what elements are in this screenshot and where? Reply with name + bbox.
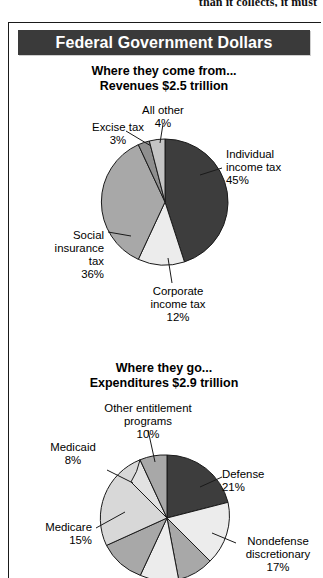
pie2-label-other-entitlement: Other entitlement programs 10% bbox=[90, 402, 206, 441]
pie2-label-nondefense-pct: 17% bbox=[236, 561, 320, 574]
pie2-label-medicare-pct: 15% bbox=[14, 534, 92, 547]
pie1-label-corporate-pct: 12% bbox=[132, 311, 224, 324]
pie2-label-nondefense-line2: discretionary bbox=[236, 548, 320, 561]
pie1-label-all-other-pct: 4% bbox=[132, 117, 194, 130]
pie2-label-nondefense-discretionary: Nondefense discretionary 17% bbox=[236, 535, 320, 574]
pie1-label-social-line3: tax bbox=[22, 255, 104, 268]
pie1-label-social-line2: insurance bbox=[22, 242, 104, 255]
pie2-label-other-ent-line1: Other entitlement bbox=[90, 402, 206, 415]
pie1-label-social-pct: 36% bbox=[22, 268, 104, 281]
figure-title: Federal Government Dollars bbox=[56, 35, 273, 51]
pie2-label-other-ent-pct: 10% bbox=[90, 428, 206, 441]
pie1-label-excise-tax-pct: 3% bbox=[75, 134, 161, 147]
section2-heading-line1: Where they go... bbox=[116, 361, 213, 375]
pie2-label-medicaid: Medicaid 8% bbox=[40, 441, 106, 467]
pie1-label-social-insurance-tax: Social insurance tax 36% bbox=[22, 229, 104, 281]
pie2-label-defense: Defense 21% bbox=[222, 468, 292, 494]
pie1-label-individual-line2: income tax bbox=[226, 161, 318, 174]
section-heading-expenditures: Where they go... Expenditures $2.9 trill… bbox=[18, 361, 310, 391]
pie1-label-corporate-income-tax: Corporate income tax 12% bbox=[132, 285, 224, 324]
figure-title-banner: Federal Government Dollars bbox=[18, 30, 310, 55]
pie1-label-all-other-text: All other bbox=[132, 104, 194, 117]
pie1-label-individual-line1: Individual bbox=[226, 148, 318, 161]
pie1-label-individual-pct: 45% bbox=[226, 174, 318, 187]
cut-off-body-text: than it collects, it must bbox=[0, 0, 323, 7]
infographic-root: than it collects, it must Federal Govern… bbox=[0, 0, 323, 578]
pie1-label-individual-income-tax: Individual income tax 45% bbox=[226, 148, 318, 187]
section2-heading-line2: Expenditures $2.9 trillion bbox=[18, 376, 310, 391]
pie1-label-all-other: All other 4% bbox=[132, 104, 194, 130]
pie2-label-defense-pct: 21% bbox=[222, 481, 292, 494]
pie1-label-corporate-line1: Corporate bbox=[132, 285, 224, 298]
pie2-label-medicaid-text: Medicaid bbox=[40, 441, 106, 454]
pie1-label-social-line1: Social bbox=[22, 229, 104, 242]
pie2-label-medicare: Medicare 15% bbox=[14, 521, 92, 547]
section-heading-revenues: Where they come from... Revenues $2.5 tr… bbox=[18, 64, 310, 94]
pie2-label-medicaid-pct: 8% bbox=[40, 454, 106, 467]
section1-heading-line2: Revenues $2.5 trillion bbox=[18, 79, 310, 94]
pie2-label-other-ent-line2: programs bbox=[90, 415, 206, 428]
pie1-label-corporate-line2: income tax bbox=[132, 298, 224, 311]
pie2-label-defense-text: Defense bbox=[222, 468, 292, 481]
section1-heading-line1: Where they come from... bbox=[91, 64, 236, 78]
pie2-label-nondefense-line1: Nondefense bbox=[236, 535, 320, 548]
pie2-label-medicare-text: Medicare bbox=[14, 521, 92, 534]
